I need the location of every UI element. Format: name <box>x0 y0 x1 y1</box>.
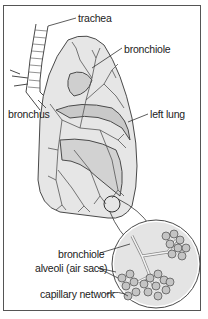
label-left-lung: left lung <box>150 108 185 120</box>
label-trachea: trachea <box>78 12 112 24</box>
label-bronchiole-inset: bronchiole <box>58 248 104 260</box>
label-alveoli: alveoli (air sacs) <box>35 262 107 274</box>
label-bronchus: bronchus <box>8 108 50 120</box>
alveoli-inset <box>112 220 200 308</box>
left-lung-shape <box>38 36 137 218</box>
label-capillary-network: capillary network <box>40 288 115 300</box>
label-bronchiole: bronchiole <box>124 43 170 55</box>
